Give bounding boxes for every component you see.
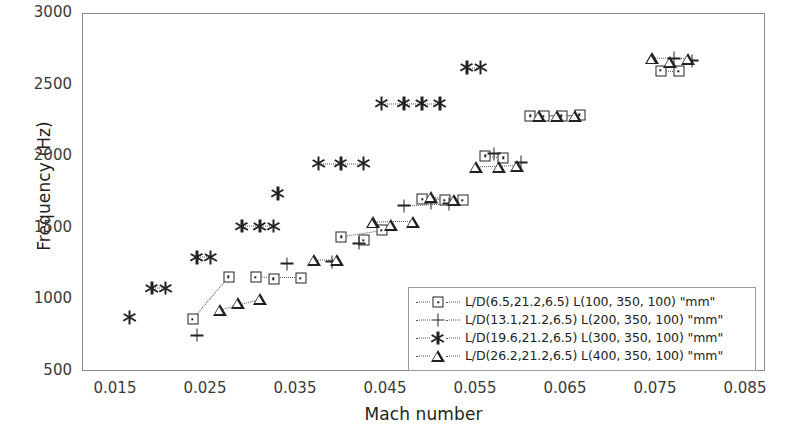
data-point-plus bbox=[353, 237, 366, 250]
data-point-square bbox=[187, 314, 198, 325]
data-point-plus bbox=[432, 314, 445, 327]
data-point-asterisk bbox=[474, 61, 487, 74]
data-point-triangle bbox=[231, 297, 245, 309]
data-point-asterisk bbox=[432, 332, 445, 345]
data-point-triangle bbox=[213, 304, 227, 316]
data-point-triangle bbox=[330, 254, 344, 266]
data-point-asterisk bbox=[123, 311, 136, 324]
data-point-triangle bbox=[645, 52, 659, 64]
x-tick-label: 0.075 bbox=[620, 381, 690, 396]
legend-marker-asterisk bbox=[415, 330, 461, 346]
data-point-asterisk bbox=[159, 282, 172, 295]
legend-marker-square bbox=[415, 294, 461, 310]
data-point-asterisk bbox=[204, 251, 217, 264]
legend-entry[interactable]: L/D(19.6,21.2,6.5) L(300, 350, 100) "mm" bbox=[415, 329, 749, 347]
data-point-square bbox=[250, 272, 261, 283]
data-point-triangle bbox=[532, 110, 546, 122]
data-point-plus bbox=[191, 329, 204, 342]
data-point-asterisk bbox=[146, 282, 159, 295]
x-tick-label: 0.015 bbox=[80, 381, 150, 396]
x-tick-label: 0.085 bbox=[710, 381, 780, 396]
data-point-triangle bbox=[681, 53, 695, 65]
data-point-triangle bbox=[384, 219, 398, 231]
data-point-plus bbox=[488, 147, 501, 160]
data-point-triangle bbox=[663, 56, 677, 68]
data-point-square bbox=[223, 271, 234, 282]
data-point-triangle bbox=[424, 191, 438, 203]
legend-entry[interactable]: L/D(6.5,21.2,6.5) L(100, 350, 100) "mm" bbox=[415, 293, 749, 311]
chart-figure: Frequency (Hz) Mach number 5001000150020… bbox=[0, 0, 788, 431]
data-point-triangle bbox=[307, 254, 321, 266]
data-point-square bbox=[268, 273, 279, 284]
legend-marker-plus bbox=[415, 312, 461, 328]
legend-dash-left bbox=[416, 302, 430, 303]
legend-entry[interactable]: L/D(13.1,21.2,6.5) L(200, 350, 100) "mm" bbox=[415, 311, 749, 329]
y-tick-label: 1500 bbox=[10, 220, 72, 235]
data-point-triangle bbox=[510, 160, 524, 172]
legend-dash-right bbox=[446, 302, 460, 303]
data-point-plus bbox=[398, 199, 411, 212]
y-tick-label: 2500 bbox=[10, 77, 72, 92]
x-tick-label: 0.065 bbox=[530, 381, 600, 396]
data-point-asterisk bbox=[191, 251, 204, 264]
data-point-asterisk bbox=[272, 187, 285, 200]
x-tick-label: 0.055 bbox=[440, 381, 510, 396]
x-tick-label: 0.045 bbox=[350, 381, 420, 396]
data-point-triangle bbox=[366, 216, 380, 228]
legend-dash-left bbox=[416, 320, 430, 321]
legend-dash-right bbox=[446, 356, 460, 357]
data-point-asterisk bbox=[236, 219, 249, 232]
legend-dash-left bbox=[416, 338, 430, 339]
data-point-asterisk bbox=[267, 219, 280, 232]
data-point-asterisk bbox=[254, 219, 267, 232]
legend-dash-right bbox=[446, 338, 460, 339]
x-tick-label: 0.035 bbox=[260, 381, 330, 396]
data-point-square bbox=[433, 297, 444, 308]
legend-dash-right bbox=[446, 320, 460, 321]
data-point-asterisk bbox=[357, 157, 370, 170]
legend-label: L/D(19.6,21.2,6.5) L(300, 350, 100) "mm" bbox=[465, 330, 723, 346]
data-point-asterisk bbox=[335, 157, 348, 170]
x-axis-title: Mach number bbox=[82, 404, 765, 424]
data-point-triangle bbox=[406, 216, 420, 228]
y-tick-label: 1000 bbox=[10, 291, 72, 306]
data-point-plus bbox=[281, 257, 294, 270]
data-point-triangle bbox=[447, 194, 461, 206]
legend-label: L/D(26.2,21.2,6.5) L(400, 350, 100) "mm" bbox=[465, 348, 723, 364]
y-tick-label: 3000 bbox=[10, 5, 72, 20]
y-tick-label: 500 bbox=[10, 363, 72, 378]
data-point-asterisk bbox=[312, 157, 325, 170]
legend-entry[interactable]: L/D(26.2,21.2,6.5) L(400, 350, 100) "mm" bbox=[415, 347, 749, 365]
data-point-triangle bbox=[253, 293, 267, 305]
data-point-asterisk bbox=[461, 61, 474, 74]
series-connector bbox=[382, 103, 441, 104]
legend: L/D(6.5,21.2,6.5) L(100, 350, 100) "mm"L… bbox=[408, 287, 756, 371]
legend-marker-triangle bbox=[415, 348, 461, 364]
data-point-triangle bbox=[492, 161, 506, 173]
data-point-asterisk bbox=[375, 97, 388, 110]
legend-label: L/D(6.5,21.2,6.5) L(100, 350, 100) "mm" bbox=[465, 294, 715, 310]
legend-label: L/D(13.1,21.2,6.5) L(200, 350, 100) "mm" bbox=[465, 312, 723, 328]
y-tick-label: 2000 bbox=[10, 148, 72, 163]
data-point-asterisk bbox=[434, 97, 447, 110]
data-point-asterisk bbox=[416, 97, 429, 110]
data-point-triangle bbox=[568, 110, 582, 122]
data-point-triangle bbox=[550, 110, 564, 122]
data-point-asterisk bbox=[398, 97, 411, 110]
data-point-triangle bbox=[431, 350, 445, 362]
data-point-square bbox=[295, 273, 306, 284]
legend-dash-left bbox=[416, 356, 430, 357]
data-point-square bbox=[336, 231, 347, 242]
data-point-triangle bbox=[469, 161, 483, 173]
x-tick-label: 0.025 bbox=[170, 381, 240, 396]
